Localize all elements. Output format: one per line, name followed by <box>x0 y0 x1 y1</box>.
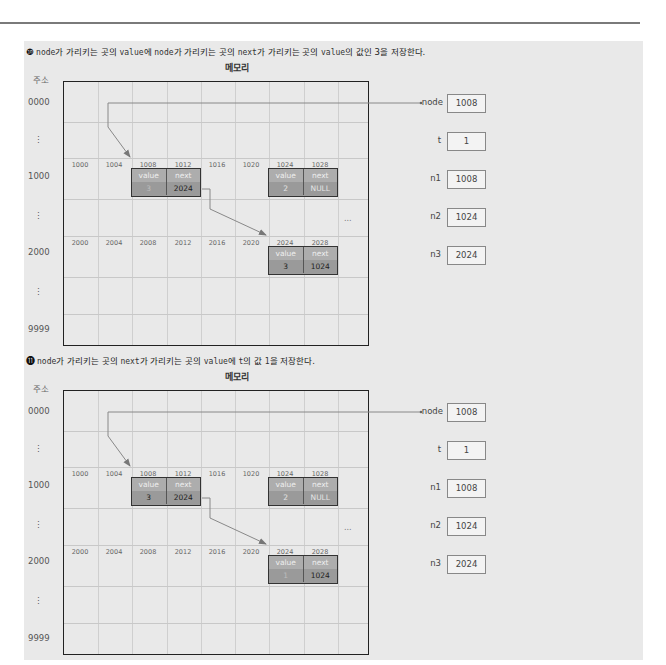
value-field-label: value <box>132 478 166 491</box>
caption-code: value <box>204 357 228 366</box>
row-address-label: ⋮ <box>34 595 66 605</box>
value-field: 2 <box>269 182 303 195</box>
value-field: 3 <box>132 182 166 195</box>
caption-text: 가 가리키는 곳의 <box>140 356 204 366</box>
value-field: 1 <box>269 569 303 582</box>
value-field-label: value <box>269 478 303 491</box>
caption-text: 에 <box>228 356 239 366</box>
caption-code: node <box>36 48 55 57</box>
row-address-label: ⋮ <box>34 134 66 144</box>
cell-address-label: 2016 <box>200 548 234 556</box>
memory-title: 메모리 <box>225 61 249 74</box>
row-address-label: 0000 <box>28 97 60 107</box>
row-address-label: 2000 <box>28 247 60 257</box>
variable-name-t: t <box>401 135 441 145</box>
grid-hline <box>64 158 368 159</box>
top-rule <box>0 22 640 24</box>
step-number-icon: ⓫ <box>26 356 35 366</box>
cell-address-label: 1020 <box>234 161 268 169</box>
row-address-label: ⋮ <box>34 210 66 220</box>
variable-value-n3: 2024 <box>447 246 486 265</box>
grid-hline <box>64 431 368 432</box>
next-field-label: next <box>303 247 338 260</box>
row-address-label: ⋮ <box>34 443 66 453</box>
variable-value-node: 1008 <box>447 403 486 422</box>
variable-value-n2: 1024 <box>447 517 486 536</box>
struct-value-row: 2NULL <box>269 182 337 195</box>
cell-address-label: 1020 <box>234 470 268 478</box>
next-field: 2024 <box>166 182 201 195</box>
cell-address-label: 2000 <box>63 548 97 556</box>
grid-hline <box>64 586 368 587</box>
caption-text: 가 가리키는 곳의 <box>174 47 238 57</box>
next-field: 1024 <box>303 260 338 273</box>
struct-header-row: valuenext <box>132 169 200 183</box>
memory-step-section: ❿node가 가리키는 곳의 value에 node가 가리키는 곳의 next… <box>0 41 666 350</box>
variable-value-n1: 1008 <box>447 479 486 498</box>
variable-value-t: 1 <box>447 441 486 460</box>
cell-address-label: 2012 <box>166 239 200 247</box>
variable-value-node: 1008 <box>447 94 486 113</box>
caption-code: value <box>321 48 345 57</box>
struct-header-row: valuenext <box>269 169 337 183</box>
row-address-label: ⋮ <box>34 519 66 529</box>
caption-text: 가 가리키는 곳의 <box>55 47 119 57</box>
variable-value-n2: 1024 <box>447 208 486 227</box>
node-struct-n1: valuenext32024 <box>131 477 201 506</box>
struct-value-row: 2NULL <box>269 491 337 504</box>
value-field-label: value <box>269 169 303 182</box>
grid-hline <box>64 467 368 468</box>
struct-header-row: valuenext <box>269 478 337 492</box>
variable-name-n3: n3 <box>401 249 441 259</box>
step-caption: ❿node가 가리키는 곳의 value에 node가 가리키는 곳의 next… <box>26 45 425 57</box>
memory-grid <box>63 390 369 655</box>
next-field-label: next <box>303 169 338 182</box>
row-address-label: ⋮ <box>34 286 66 296</box>
address-title: 주소 <box>33 382 49 394</box>
struct-header-row: valuenext <box>269 556 337 570</box>
value-field-label: value <box>269 247 303 260</box>
struct-value-row: 11024 <box>269 569 337 582</box>
variable-name-n1: n1 <box>401 482 441 492</box>
variable-value-t: 1 <box>447 132 486 151</box>
next-field: 1024 <box>303 569 338 582</box>
cell-address-label: 1004 <box>97 161 131 169</box>
row-address-label: 1000 <box>28 480 60 490</box>
address-title: 주소 <box>33 73 49 85</box>
variable-name-n2: n2 <box>401 520 441 530</box>
variable-name-t: t <box>401 444 441 454</box>
struct-header-row: valuenext <box>132 478 200 492</box>
grid-hline <box>64 277 368 278</box>
variable-value-n3: 2024 <box>447 555 486 574</box>
variable-value-n1: 1008 <box>447 170 486 189</box>
grid-hline <box>64 122 368 123</box>
struct-value-row: 31024 <box>269 260 337 273</box>
next-field: NULL <box>303 491 338 504</box>
cell-address-label: 2004 <box>97 548 131 556</box>
memory-title: 메모리 <box>225 370 249 383</box>
next-field-label: next <box>166 478 201 491</box>
cell-address-label: 2000 <box>63 239 97 247</box>
variable-name-n3: n3 <box>401 558 441 568</box>
variable-name-node: node <box>403 406 443 416</box>
caption-text: 의 값 <box>243 356 264 366</box>
caption-text: 가 가리키는 곳의 <box>257 47 321 57</box>
row-address-label: 0000 <box>28 406 60 416</box>
caption-text: 을 저장한다. <box>270 356 315 366</box>
struct-header-row: valuenext <box>269 247 337 261</box>
cell-address-label: 1004 <box>97 470 131 478</box>
cell-address-label: 2008 <box>131 239 165 247</box>
step-caption: ⓫node가 가리키는 곳의 next가 가리키는 곳의 value에 t의 값… <box>26 354 315 367</box>
cell-address-label: 2020 <box>234 548 268 556</box>
next-field: 2024 <box>166 491 201 504</box>
cell-address-label: 1016 <box>200 470 234 478</box>
memory-ellipsis: ... <box>344 214 352 223</box>
caption-code: node <box>37 357 56 366</box>
caption-code: next <box>120 357 139 366</box>
row-address-label: 1000 <box>28 171 60 181</box>
caption-code: next <box>238 48 257 57</box>
grid-hline <box>64 545 368 546</box>
caption-text: 의 값인 3을 저장한다. <box>345 47 425 57</box>
node-struct-n2: valuenext2NULL <box>268 477 338 506</box>
grid-hline <box>64 508 368 509</box>
